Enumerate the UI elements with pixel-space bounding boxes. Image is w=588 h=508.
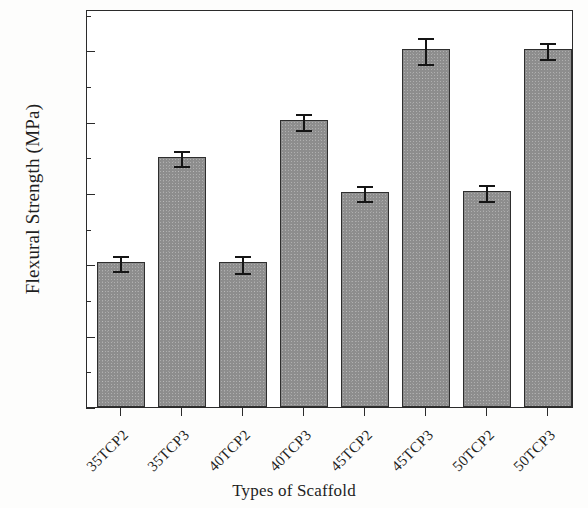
error-bar-40tcp2 xyxy=(242,256,244,273)
bar-series xyxy=(87,11,572,407)
bar-50tcp3 xyxy=(524,49,572,407)
x-tick-50tcp2 xyxy=(486,408,487,416)
error-cap-45tcp2-upper xyxy=(357,186,373,188)
bar-45tcp2 xyxy=(341,192,389,407)
y-minor-tick xyxy=(86,230,91,231)
x-axis-title: Types of Scaffold xyxy=(0,481,588,501)
y-tick-0.02 xyxy=(86,265,95,266)
error-cap-45tcp2-lower xyxy=(357,201,373,203)
y-tick-0.05 xyxy=(86,51,95,52)
error-cap-50tcp2-lower xyxy=(479,201,495,203)
error-bar-50tcp3 xyxy=(547,43,549,59)
y-minor-tick xyxy=(86,87,91,88)
flexural-strength-bar-chart: Flexural Strength (MPa) 0.000.010.020.03… xyxy=(0,0,588,508)
y-minor-tick xyxy=(86,372,91,373)
error-cap-40tcp3-upper xyxy=(296,114,312,116)
error-cap-40tcp3-lower xyxy=(296,130,312,132)
x-tick-45tcp3 xyxy=(425,408,426,416)
x-tick-45tcp2 xyxy=(364,408,365,416)
x-tick-40tcp2 xyxy=(242,408,243,416)
error-cap-40tcp2-upper xyxy=(235,256,251,258)
error-bar-45tcp2 xyxy=(364,186,366,202)
error-bar-40tcp3 xyxy=(303,114,305,130)
y-tick-0.00 xyxy=(86,408,95,409)
bar-35tcp2 xyxy=(97,262,145,408)
error-cap-40tcp2-lower xyxy=(235,273,251,275)
y-minor-tick xyxy=(86,301,91,302)
bar-40tcp2 xyxy=(219,262,267,407)
y-minor-tick xyxy=(86,16,91,17)
y-tick-0.04 xyxy=(86,123,95,124)
error-cap-35tcp3-lower xyxy=(174,166,190,168)
plot-area xyxy=(86,10,573,408)
y-minor-tick xyxy=(86,158,91,159)
error-cap-50tcp3-upper xyxy=(540,43,556,45)
x-tick-50tcp3 xyxy=(547,408,548,416)
error-cap-35tcp3-upper xyxy=(174,151,190,153)
bar-40tcp3 xyxy=(280,120,328,407)
error-cap-35tcp2-lower xyxy=(113,271,129,273)
error-cap-45tcp3-upper xyxy=(418,38,434,40)
y-axis-title: Flexural Strength (MPa) xyxy=(22,49,44,349)
error-cap-50tcp3-lower xyxy=(540,59,556,61)
x-tick-35tcp2 xyxy=(120,408,121,416)
y-tick-0.03 xyxy=(86,194,95,195)
error-bar-35tcp3 xyxy=(181,151,183,167)
error-bar-50tcp2 xyxy=(486,185,488,201)
bar-45tcp3 xyxy=(402,49,450,407)
error-cap-45tcp3-lower xyxy=(418,64,434,66)
error-cap-50tcp2-upper xyxy=(479,185,495,187)
x-tick-40tcp3 xyxy=(303,408,304,416)
bar-50tcp2 xyxy=(463,191,511,407)
x-tick-35tcp3 xyxy=(181,408,182,416)
error-bar-35tcp2 xyxy=(120,256,122,272)
y-tick-0.01 xyxy=(86,337,95,338)
error-bar-45tcp3 xyxy=(425,38,427,64)
bar-35tcp3 xyxy=(158,157,206,407)
error-cap-35tcp2-upper xyxy=(113,256,129,258)
